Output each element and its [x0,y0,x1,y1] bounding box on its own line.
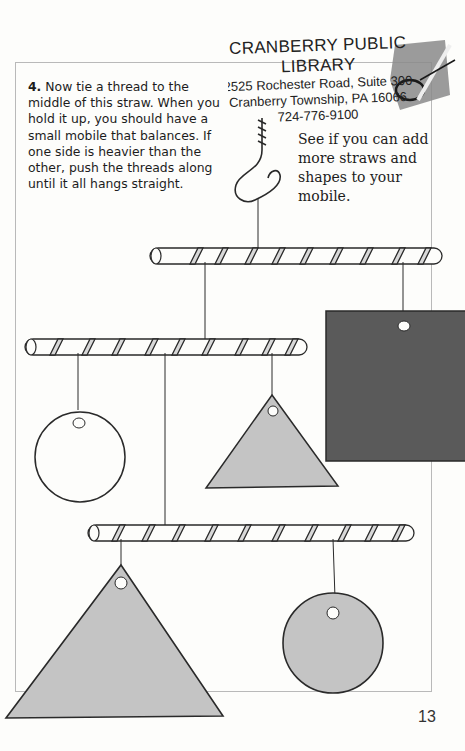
hook-icon [235,118,280,250]
middle-straw [25,339,307,355]
instructions-text: 4. Now tie a thread to the middle of thi… [28,79,228,192]
step-number: 4. [28,79,41,94]
gray-circle-shape [283,593,383,693]
library-stamp: CRANBERRY PUBLIC LIBRARY 2525 Rochester … [198,36,438,124]
gray-triangle-shape [206,395,338,488]
step-text: Now tie a thread to the middle of this s… [28,79,220,191]
large-gray-triangle-shape [6,565,223,718]
top-straw [150,248,442,264]
tip-text: See if you can add more straws and shape… [298,130,448,206]
page-number: 13 [418,708,436,726]
bottom-straw [88,525,414,541]
dark-square-shape [326,311,465,461]
white-circle-shape [35,412,125,502]
